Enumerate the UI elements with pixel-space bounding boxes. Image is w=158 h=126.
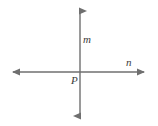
- geometry-diagram-svg: m n P: [0, 0, 158, 126]
- line-label-m: m: [83, 33, 91, 45]
- geometry-figure: m n P: [0, 0, 158, 126]
- line-label-n: n: [126, 56, 132, 68]
- point-label-p: P: [70, 74, 78, 86]
